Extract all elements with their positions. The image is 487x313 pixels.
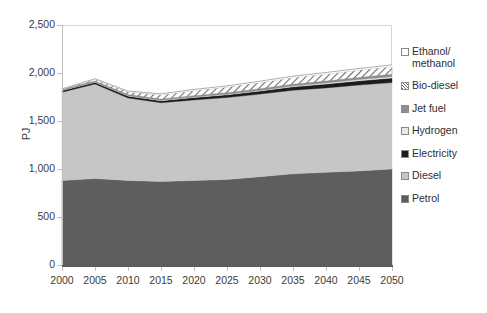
x-tick-mark xyxy=(95,267,96,271)
legend-label: Diesel xyxy=(412,170,441,182)
legend-item-jet-fuel[interactable]: Jet fuel xyxy=(401,103,487,115)
legend-label: Hydrogen xyxy=(412,125,458,137)
y-axis-title: PJ xyxy=(20,128,32,140)
legend-item-bio-diesel[interactable]: Bio-diesel xyxy=(401,80,487,92)
x-tick-label: 2050 xyxy=(372,274,412,286)
x-tick-mark xyxy=(326,267,327,271)
legend-label: Electricity xyxy=(412,148,457,160)
x-tick-mark xyxy=(194,267,195,271)
x-tick-mark xyxy=(359,267,360,271)
y-tick-label: 0 xyxy=(7,259,55,269)
y-tick-mark xyxy=(57,169,62,170)
x-tick-mark xyxy=(161,267,162,271)
x-tick-mark xyxy=(128,267,129,271)
x-tick-mark xyxy=(227,267,228,271)
y-tick-label: 2,000 xyxy=(7,67,55,77)
legend-label: Bio-diesel xyxy=(412,80,458,92)
y-axis-line xyxy=(62,25,63,266)
legend-swatch-jet-fuel-icon xyxy=(401,105,409,113)
legend-swatch-bio-diesel-icon xyxy=(401,82,409,90)
y-tick-mark xyxy=(57,265,62,266)
legend-item-ethanol-methanol[interactable]: Ethanol/ methanol xyxy=(401,46,487,69)
legend-label: Ethanol/ methanol xyxy=(412,46,455,69)
x-tick-mark xyxy=(260,267,261,271)
legend-swatch-diesel-icon xyxy=(401,172,409,180)
stacked-area-chart: 05001,0001,5002,0002,500 200020052010201… xyxy=(0,0,487,313)
y-tick-mark xyxy=(57,25,62,26)
x-tick-mark xyxy=(293,267,294,271)
legend-item-diesel[interactable]: Diesel xyxy=(401,170,487,182)
legend-label: Petrol xyxy=(412,193,439,205)
chart-legend: Ethanol/ methanolBio-dieselJet fuelHydro… xyxy=(401,46,487,215)
x-tick-mark xyxy=(392,267,393,271)
legend-item-electricity[interactable]: Electricity xyxy=(401,148,487,160)
legend-swatch-ethanol-methanol-icon xyxy=(401,48,409,56)
legend-label: Jet fuel xyxy=(412,103,446,115)
plot-area xyxy=(62,25,392,265)
legend-item-petrol[interactable]: Petrol xyxy=(401,193,487,205)
legend-swatch-petrol-icon xyxy=(401,195,409,203)
y-tick-label: 1,000 xyxy=(7,163,55,173)
y-tick-mark xyxy=(57,73,62,74)
x-tick-mark xyxy=(62,267,63,271)
y-tick-label: 2,500 xyxy=(7,19,55,29)
y-tick-label: 500 xyxy=(7,211,55,221)
y-tick-label: 1,500 xyxy=(7,115,55,125)
y-tick-mark xyxy=(57,121,62,122)
legend-item-hydrogen[interactable]: Hydrogen xyxy=(401,125,487,137)
legend-swatch-electricity-icon xyxy=(401,150,409,158)
y-tick-mark xyxy=(57,217,62,218)
legend-swatch-hydrogen-icon xyxy=(401,127,409,135)
